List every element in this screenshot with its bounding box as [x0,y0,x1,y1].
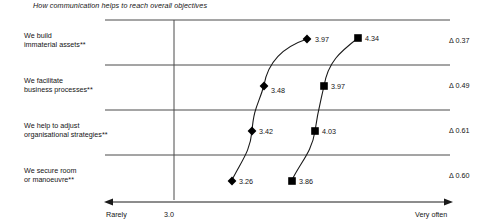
value-axis-arrow [104,199,453,206]
data-label-square-1: 4.34 [365,34,379,43]
data-point-square-3 [311,127,319,135]
data-label-diamond-4: 3.26 [239,177,253,186]
data-point-diamond-2 [260,82,269,91]
data-point-square-4 [288,177,296,185]
axis-caption-right: Very often [415,210,447,219]
data-label-square-4: 3.86 [299,177,313,186]
data-label-square-2: 3.97 [331,82,345,91]
axis-tick-label-3: 3.0 [164,210,174,219]
chart-figure: How communication helps to reach overall… [0,0,489,223]
series-line-square [292,38,358,180]
data-label-diamond-1: 3.97 [315,35,329,44]
data-point-diamond-3 [248,127,257,136]
data-point-square-2 [320,82,328,90]
data-label-diamond-2: 3.48 [271,86,285,95]
axis-caption-left: Rarely [106,210,127,219]
data-point-square-1 [354,34,362,42]
data-label-square-3: 4.03 [322,127,336,136]
data-point-diamond-1 [303,35,312,44]
plot-area [0,0,489,223]
data-label-diamond-3: 3.42 [259,127,273,136]
data-point-diamond-4 [228,177,237,186]
